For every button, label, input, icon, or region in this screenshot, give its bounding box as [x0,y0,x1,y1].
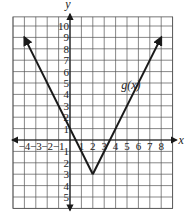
y-tick-label: 7 [64,54,70,66]
y-tick-label: 10 [58,20,70,32]
x-tick-label: 4 [113,140,119,152]
function-label: g(x) [121,78,140,92]
x-tick-label: 6 [136,140,142,152]
y-tick-label: 4 [64,88,70,100]
y-tick-label: 6 [64,66,70,78]
y-tick-label: 5 [64,77,70,89]
x-tick-label: −2 [41,140,53,152]
y-tick-label: 2 [64,157,70,169]
axes [12,14,177,211]
y-axis-label: y [64,0,71,11]
x-tick-label: −4 [19,140,31,152]
y-tick-label: 3 [64,168,70,180]
y-tick-label: 8 [64,43,70,55]
function-graph: −4−3−2−1123456781098765432112345 x y g(x… [0,0,187,220]
x-tick-label: 7 [147,140,153,152]
x-tick-label: 8 [158,140,164,152]
y-tick-label: 3 [64,100,70,112]
x-tick-label: −3 [30,140,42,152]
tick-labels: −4−3−2−1123456781098765432112345 [19,20,165,203]
y-tick-label: 5 [64,191,70,203]
y-tick-label: 4 [64,180,70,192]
y-tick-label: 9 [64,31,70,43]
x-axis-label: x [178,133,185,147]
x-tick-label: 2 [90,140,96,152]
x-tick-label: 5 [124,140,130,152]
y-tick-label: 1 [64,145,70,157]
grid-lines [13,17,173,209]
